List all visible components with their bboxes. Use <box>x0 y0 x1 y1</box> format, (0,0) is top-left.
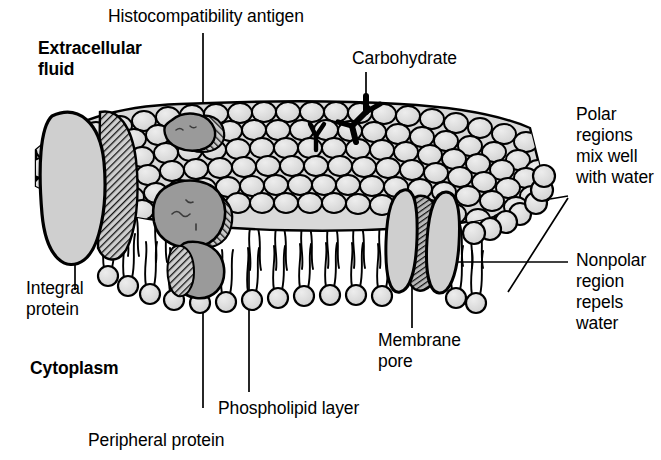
integral-protein <box>40 111 137 264</box>
label-extracellular-fluid: Extracellular fluid <box>38 38 142 80</box>
label-integral-protein: Integral protein <box>26 278 84 320</box>
label-carbohydrate: Carbohydrate <box>352 48 457 69</box>
label-nonpolar-region: Nonpolar region repels water <box>576 250 646 334</box>
label-phospholipid-layer: Phospholipid layer <box>218 398 359 419</box>
membrane-diagram: Extracellular fluid Histocompatibility a… <box>0 0 661 460</box>
label-cytoplasm: Cytoplasm <box>30 358 119 379</box>
peripheral-protein <box>153 181 232 299</box>
membrane-pore <box>386 190 460 293</box>
label-peripheral-protein: Peripheral protein <box>88 430 224 451</box>
histocompatibility-antigen <box>164 114 224 152</box>
label-histocompatibility-antigen: Histocompatibility antigen <box>108 6 304 27</box>
label-membrane-pore: Membrane pore <box>378 330 461 372</box>
label-polar-regions: Polar regions mix well with water <box>576 104 654 188</box>
